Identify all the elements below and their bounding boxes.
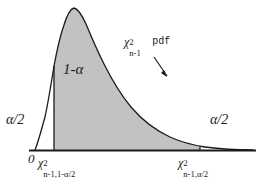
lower-critical-value-label: χ2n-1,1-α/2 (38, 157, 95, 169)
upper-chi-subscript: n-1,α/2 (183, 170, 208, 179)
left-tail-region (35, 66, 54, 150)
upper-critical-value-label: χ2n-1,α/2 (178, 157, 223, 169)
pdf-annotation-arrow (154, 57, 167, 77)
pdf-chi-subscript: n-1 (129, 49, 141, 58)
pdf-chi-term: χ2n-1 (124, 36, 149, 48)
lower-chi-term: χ2n-1,1-α/2 (38, 157, 95, 169)
confidence-level-label: 1-α (63, 62, 83, 77)
right-tail-alpha-label: α/2 (210, 113, 228, 127)
left-tail-alpha-label: α/2 (6, 113, 24, 127)
upper-chi-superscript: 2 (183, 159, 187, 168)
lower-chi-superscript: 2 (43, 159, 47, 168)
shaded-confidence-region (54, 8, 200, 150)
chi-squared-distribution-figure: 1-α α/2 α/2 0 χ2n-1 pdf χ2n-1,1-α/2 χ2n-… (0, 0, 261, 184)
pdf-word-label: pdf (152, 36, 170, 47)
lower-chi-subscript: n-1,1-α/2 (43, 170, 75, 179)
upper-chi-term: χ2n-1,α/2 (178, 157, 223, 169)
origin-label: 0 (28, 152, 35, 165)
pdf-curve-label: χ2n-1 pdf (124, 36, 170, 48)
pdf-chi-superscript: 2 (129, 38, 133, 47)
